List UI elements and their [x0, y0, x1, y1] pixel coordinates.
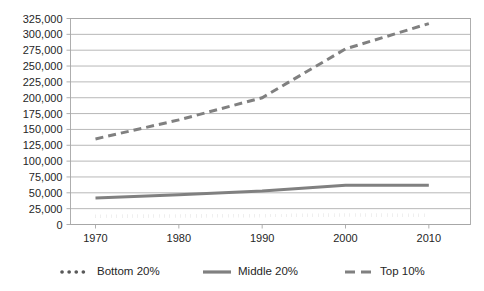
- y-axis-tick-label: 275,000: [23, 44, 63, 56]
- legend-label: Top 10%: [380, 265, 425, 277]
- y-axis-tick-label: 125,000: [23, 139, 63, 151]
- y-axis-tick-label: 75,000: [29, 171, 63, 183]
- legend-label: Bottom 20%: [97, 265, 160, 277]
- plot-area-frame: [71, 19, 471, 225]
- y-axis-tick-label: 200,000: [23, 92, 63, 104]
- x-axis-tick-label: 2000: [333, 232, 357, 244]
- legend-item[interactable]: Top 10%: [345, 265, 425, 277]
- chart-legend: Bottom 20%Middle 20%Top 10%: [62, 265, 425, 277]
- y-axis-tick-label: 225,000: [23, 76, 63, 88]
- y-axis-tick-label: 50,000: [29, 187, 63, 199]
- legend-item[interactable]: Bottom 20%: [62, 265, 160, 277]
- series-line-top-10: [96, 24, 429, 139]
- legend-label: Middle 20%: [238, 265, 298, 277]
- y-axis-tick-label: 25,000: [29, 203, 63, 215]
- y-axis-tick-label: 325,000: [23, 13, 63, 25]
- series-lines-group: [96, 24, 429, 217]
- x-axis-tick-label: 2010: [417, 232, 441, 244]
- y-axis-tick-label: 100,000: [23, 155, 63, 167]
- chart-canvas: 025,00050,00075,000100,000125,000150,000…: [0, 0, 484, 291]
- series-line-middle-20: [96, 185, 429, 198]
- series-line-bottom-20: [96, 215, 429, 216]
- y-axis-tick-label: 175,000: [23, 108, 63, 120]
- x-axis-tick-label: 1980: [167, 232, 191, 244]
- legend-item[interactable]: Middle 20%: [203, 265, 298, 277]
- y-axis-tick-label: 250,000: [23, 60, 63, 72]
- line-chart: 025,00050,00075,000100,000125,000150,000…: [0, 0, 484, 291]
- x-axis-tick-label: 1970: [83, 232, 107, 244]
- gridlines-group: [67, 19, 471, 225]
- y-axis-tick-label: 0: [56, 219, 62, 231]
- y-axis-tick-label: 300,000: [23, 28, 63, 40]
- x-axis-tick-label: 1990: [250, 232, 274, 244]
- y-axis-tick-label: 150,000: [23, 123, 63, 135]
- x-axis-tick-marks: [96, 225, 429, 229]
- x-axis-tick-labels: 19701980199020002010: [83, 232, 441, 244]
- y-axis-tick-labels: 025,00050,00075,000100,000125,000150,000…: [23, 13, 63, 231]
